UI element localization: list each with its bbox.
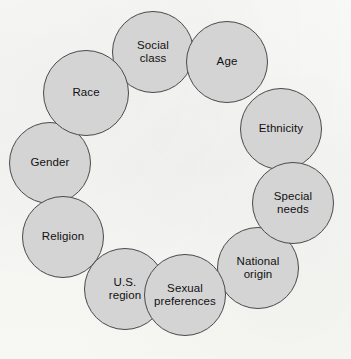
circle-node-label: U.S. region <box>105 276 146 303</box>
circle-node-label: Special needs <box>270 190 316 217</box>
circle-node-label: Ethnicity <box>255 122 307 136</box>
circle-node-label: Race <box>68 86 103 100</box>
circle-node-label: Sexual preferences <box>150 282 220 309</box>
diagram-canvas: Social classAgeEthnicitySpecial needsNat… <box>0 0 351 359</box>
circle-node-label: National origin <box>233 255 284 282</box>
circle-node-age: Age <box>186 21 268 103</box>
circle-node-label: Gender <box>27 156 74 170</box>
circle-ring-group: Social classAgeEthnicitySpecial needsNat… <box>0 0 351 359</box>
circle-node-race: Race <box>43 50 129 136</box>
circle-node-label: Age <box>213 55 242 69</box>
circle-node-religion: Religion <box>22 196 104 278</box>
circle-node-ethnicity: Ethnicity <box>240 88 322 170</box>
circle-node-label: Religion <box>38 230 88 244</box>
circle-node-sexual-preferences: Sexual preferences <box>144 254 226 336</box>
circle-node-special-needs: Special needs <box>252 162 334 244</box>
circle-node-label: Social class <box>133 39 173 66</box>
